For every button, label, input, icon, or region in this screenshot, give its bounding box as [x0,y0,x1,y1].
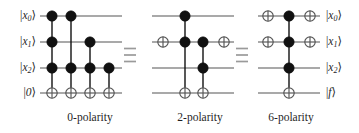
circuit-2-polarity-gate-col-1 [158,37,168,47]
control-dot [198,37,208,47]
circuit-6-polarity-gate-col-3b [305,37,315,47]
wire-label-right-x2: |x2⟩ [326,62,342,74]
circuit-0-polarity [40,11,122,98]
wire-label-right-f: |f⟩ [326,87,336,99]
wire-label-left-x0: |x0⟩ [20,10,36,22]
control-dot [47,63,57,73]
circuit-2-polarity-gate-col-3 [198,37,208,98]
wire-label-left-x2: |x2⟩ [20,62,36,74]
circuit-0-polarity-gate-col-2 [66,11,76,98]
circuit-2-polarity [152,11,234,98]
control-dot [284,63,294,73]
control-dot [180,11,190,21]
control-dot [47,11,57,21]
circuit-6-polarity [258,11,320,98]
caption-0-polarity: 0-polarity [30,112,150,124]
quantum-circuit-figure: |x0⟩|x1⟩|x2⟩|0⟩|x0⟩|x1⟩|x2⟩|f⟩0-polarity… [0,0,359,133]
control-dot [198,63,208,73]
equals-sign-2 [236,49,248,62]
wire-label-right-x0: |x0⟩ [326,10,342,22]
circuit-2-polarity-gate-col-2 [180,11,190,98]
circuit-6-polarity-gate-col-1b [263,37,273,47]
circuit-0-polarity-gate-col-4 [104,63,114,98]
control-dot [180,37,190,47]
circuit-6-polarity-gate-col-3 [305,11,315,21]
circuit-0-polarity-gate-col-3 [85,37,95,98]
control-dot [85,63,95,73]
control-dot [47,37,57,47]
equals-sign-1 [124,49,136,62]
control-dot [66,11,76,21]
control-dot [85,37,95,47]
control-dot [284,37,294,47]
circuit-2-polarity-gate-col-4 [219,37,229,47]
control-dot [66,63,76,73]
wire-label-left-zero: |0⟩ [23,87,36,99]
circuit-6-polarity-gate-col-1 [263,11,273,21]
wire-label-right-x1: |x1⟩ [326,36,342,48]
wire-label-left-x1: |x1⟩ [20,36,36,48]
control-dot [104,63,114,73]
circuit-0-polarity-gate-col-1 [47,11,57,98]
circuit-6-polarity-gate-col-2 [284,11,294,98]
caption-6-polarity: 6-polarity [231,112,351,124]
control-dot [284,11,294,21]
